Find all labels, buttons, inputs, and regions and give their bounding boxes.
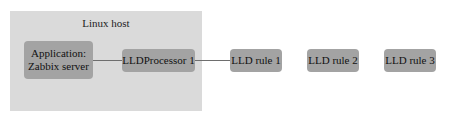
node-application-zabbix-server: Application: Zabbix server (24, 41, 93, 79)
node-lld-rule-2: LLD rule 2 (307, 49, 359, 72)
edge-processor-to-rule1 (195, 60, 230, 61)
linux-host-label: Linux host (10, 17, 202, 29)
node-app-line-2: Zabbix server (28, 60, 89, 73)
edge-app-to-processor (93, 60, 122, 61)
node-lld-rule-3: LLD rule 3 (384, 49, 436, 72)
node-label: LLD rule 3 (385, 54, 434, 67)
node-label: LLD rule 2 (308, 54, 357, 67)
node-label: LLDProcessor 1 (122, 54, 194, 67)
node-lld-processor-1: LLDProcessor 1 (122, 49, 195, 72)
node-label: LLD rule 1 (231, 54, 280, 67)
node-lld-rule-1: LLD rule 1 (230, 49, 282, 72)
node-app-line-1: Application: (31, 47, 86, 60)
